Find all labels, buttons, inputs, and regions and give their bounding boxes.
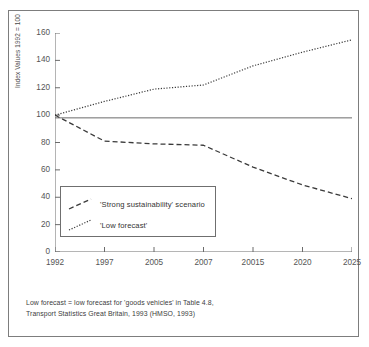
legend-item-low-forecast: 'Low forecast'	[61, 216, 215, 234]
y-axis-tick-label: 60	[28, 166, 50, 174]
legend-item-strong-sustainability: 'Strong sustainability' scenario	[61, 195, 215, 213]
x-axis-ticks	[55, 247, 352, 252]
x-axis-tick-label: 20015	[242, 258, 265, 267]
footnote-line-2: Transport Statistics Great Britain, 1993…	[26, 309, 336, 320]
y-axis-tick-label: 100	[28, 111, 50, 119]
y-axis-tick-label: 140	[28, 56, 50, 64]
x-axis-tick-label: 2020	[293, 258, 311, 267]
y-axis-tick-label: 0	[28, 248, 50, 256]
chart-legend: 'Strong sustainability' scenario 'Low fo…	[60, 186, 216, 237]
series-low-forecast	[55, 40, 352, 115]
x-axis-tick-label: 2005	[145, 258, 163, 267]
y-axis-tick-label: 120	[28, 84, 50, 92]
legend-swatch-dashed-icon	[67, 197, 93, 211]
y-axis-tick-label: 160	[28, 29, 50, 37]
footnote-line-1: Low forecast = low forecast for 'goods v…	[26, 298, 336, 309]
legend-swatch-dotted-icon	[67, 218, 93, 232]
x-axis-tick-label: 2025	[343, 258, 361, 267]
y-axis-label: Index Values 1992 = 100	[14, 0, 21, 88]
chart-footnote: Low forecast = low forecast for 'goods v…	[26, 298, 336, 319]
y-axis-tick-labels: 020406080100120140160	[26, 33, 50, 252]
y-axis-tick-label: 80	[28, 139, 50, 147]
x-axis-tick-labels: 19921997200520072001520202025	[55, 258, 352, 272]
legend-label-strong-sustainability: 'Strong sustainability' scenario	[100, 200, 205, 209]
x-axis-tick-label: 1997	[95, 258, 113, 267]
chart-figure: Index Values 1992 = 100 0204060801001201…	[0, 0, 369, 347]
x-axis-tick-label: 2007	[194, 258, 212, 267]
legend-label-low-forecast: 'Low forecast'	[100, 221, 147, 230]
y-axis-tick-label: 40	[28, 193, 50, 201]
y-axis-tick-label: 20	[28, 221, 50, 229]
x-axis-tick-label: 1992	[46, 258, 64, 267]
